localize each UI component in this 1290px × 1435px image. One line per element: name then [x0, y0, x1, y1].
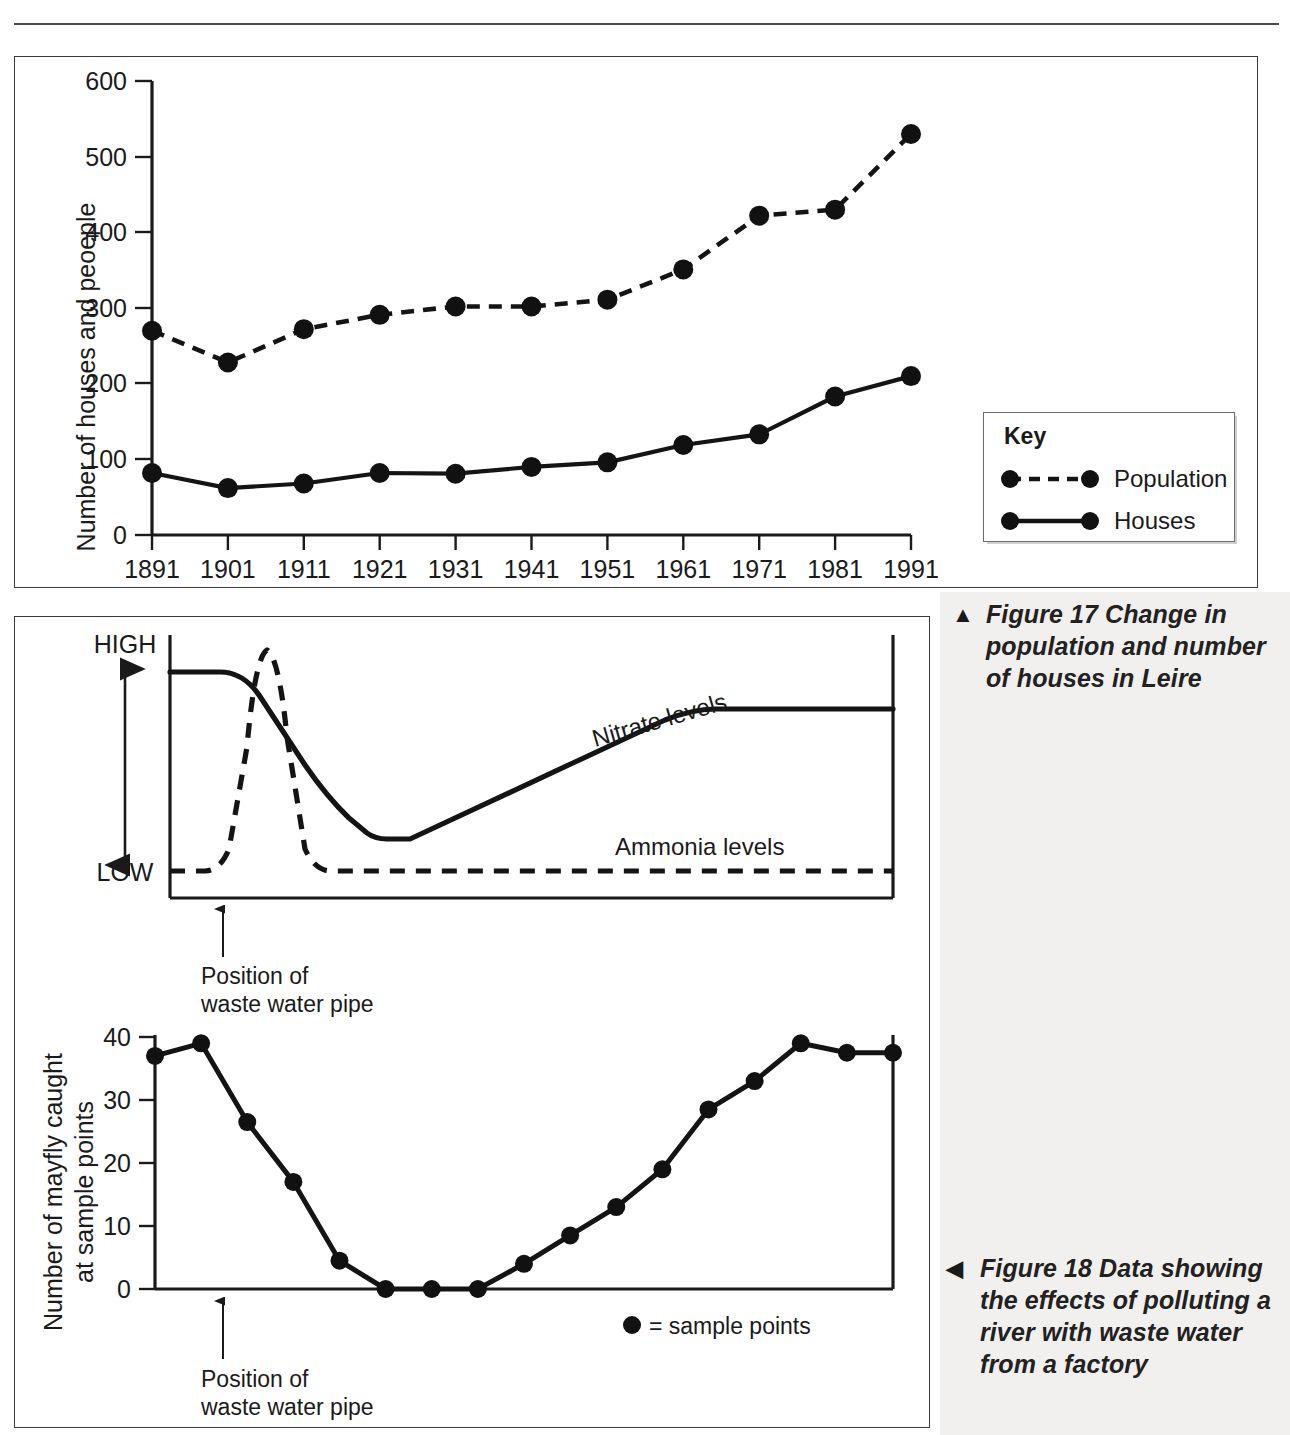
figure-18-upper-chart: HIGH LOW Nitrate levels Ammonia levels P… — [15, 617, 928, 1017]
figure-17-caption: ▲ Figure 17 Change in population and num… — [952, 598, 1282, 694]
figure-18-caption-text: Figure 18 Data showing the effects of po… — [980, 1252, 1282, 1380]
figure-18-lower-pipe-annotation-line1: Position of — [201, 1366, 309, 1392]
page-top-rule — [14, 23, 1279, 25]
figure-17-population-points — [142, 124, 921, 373]
data-point — [825, 387, 845, 407]
sample-point-legend-dot — [623, 1316, 641, 1334]
svg-text:400: 400 — [85, 218, 127, 246]
data-point — [901, 124, 921, 144]
figure-17-population-line — [152, 134, 911, 363]
sample-point — [377, 1280, 395, 1298]
figure-18-lower-y-axis-label-line1: Number of mayfly caught — [39, 1053, 67, 1331]
sample-point — [469, 1280, 487, 1298]
sample-point — [331, 1252, 349, 1270]
figure-18-upper-pipe-annotation-line2: waste water pipe — [200, 991, 374, 1017]
figure-17-x-tick-label: 1891 — [124, 555, 180, 583]
sample-point — [238, 1113, 256, 1131]
sample-point — [423, 1280, 441, 1298]
sample-point — [700, 1100, 718, 1118]
figure-17-caption-text: Figure 17 Change in population and numbe… — [986, 598, 1282, 694]
figure-18-ammonia-label: Ammonia levels — [615, 833, 784, 860]
svg-text:500: 500 — [85, 143, 127, 171]
figure-17-x-tick-label: 1961 — [655, 555, 711, 583]
figure-18-ammonia-curve — [170, 650, 893, 871]
figure-17-x-tick-label: 1901 — [200, 555, 256, 583]
svg-text:0: 0 — [113, 521, 127, 549]
data-point — [597, 290, 617, 310]
data-point — [673, 259, 693, 279]
figure-18-mayfly-points — [146, 1034, 902, 1298]
svg-text:200: 200 — [85, 369, 127, 397]
figure-18-lower-y-ticks — [139, 1037, 155, 1289]
data-point — [294, 319, 314, 339]
svg-text:40: 40 — [103, 1023, 131, 1051]
sample-point — [792, 1034, 810, 1052]
figure-18-nitrate-label: Nitrate levels — [589, 688, 730, 752]
svg-text:20: 20 — [103, 1149, 131, 1177]
data-point — [597, 452, 617, 472]
data-point — [522, 296, 542, 316]
data-point — [522, 457, 542, 477]
data-point — [370, 463, 390, 483]
svg-text:100: 100 — [85, 445, 127, 473]
figure-17-x-tick-label: 1911 — [277, 555, 331, 583]
data-point — [673, 435, 693, 455]
sample-point — [192, 1034, 210, 1052]
sample-point — [146, 1047, 164, 1065]
sample-point — [284, 1173, 302, 1191]
figure-18-caption: ◀ Figure 18 Data showing the effects of … — [946, 1252, 1282, 1380]
data-point — [142, 321, 162, 341]
figure-18-panel: HIGH LOW Nitrate levels Ammonia levels P… — [14, 616, 930, 1428]
key-swatch-solid-line — [998, 507, 1102, 535]
figure-18-upper-pipe-annotation-line1: Position of — [201, 963, 309, 989]
figure-17-x-tick-label: 1971 — [731, 555, 787, 583]
sample-point — [838, 1044, 856, 1062]
sample-point-legend-label: = sample points — [649, 1313, 811, 1339]
data-point — [218, 352, 238, 372]
svg-text:600: 600 — [85, 67, 127, 95]
data-point — [446, 464, 466, 484]
figure-17-houses-points — [142, 366, 921, 498]
svg-text:300: 300 — [85, 294, 127, 322]
data-point — [901, 366, 921, 386]
figure-18-lower-pipe-annotation-line2: waste water pipe — [200, 1394, 374, 1420]
figure-17-x-tick-labels: 1891190119111921193119411951196119711981… — [124, 555, 939, 583]
sample-point — [746, 1072, 764, 1090]
data-point — [370, 305, 390, 325]
sample-point — [515, 1255, 533, 1273]
data-point — [446, 296, 466, 316]
svg-text:30: 30 — [103, 1086, 131, 1114]
figure-17-x-tick-label: 1931 — [428, 555, 484, 583]
data-point — [749, 424, 769, 444]
figure-17-key-box: Key Population Houses — [983, 412, 1235, 542]
key-label-population: Population — [1114, 465, 1227, 493]
figure-17-x-tick-label: 1921 — [352, 555, 408, 583]
figure-17-x-tick-label: 1991 — [883, 555, 939, 583]
data-point — [294, 474, 314, 494]
sample-point — [653, 1160, 671, 1178]
svg-text:0: 0 — [117, 1275, 131, 1303]
figure-18-lower-chart: Number of mayfly caught at sample points… — [15, 1017, 928, 1427]
figure-18-lower-y-axis-label-line2: at sample points — [70, 1101, 98, 1283]
sample-point — [561, 1226, 579, 1244]
data-point — [825, 200, 845, 220]
data-point — [218, 478, 238, 498]
svg-text:10: 10 — [103, 1212, 131, 1240]
sample-point — [884, 1044, 902, 1062]
caption-up-triangle-icon: ▲ — [952, 604, 974, 626]
caption-left-triangle-icon: ◀ — [946, 1258, 963, 1280]
figure-18-nitrate-curve — [170, 672, 893, 839]
data-point — [142, 463, 162, 483]
figure-18-lower-y-tick-labels: 0 10 20 30 40 — [103, 1023, 131, 1303]
figure-18-mayfly-line — [155, 1043, 893, 1289]
sample-point — [607, 1198, 625, 1216]
figure-17-x-tick-label: 1941 — [504, 555, 560, 583]
figure-17-x-tick-label: 1981 — [807, 555, 863, 583]
figure-18-axis-label-high: HIGH — [94, 630, 157, 658]
figure-17-x-tick-label: 1951 — [580, 555, 636, 583]
figure-17-panel: Number of houses and peoeple 0 100 200 3… — [14, 56, 1258, 588]
key-title: Key — [1004, 423, 1046, 450]
key-label-houses: Houses — [1114, 507, 1195, 535]
figure-17-x-ticks — [152, 535, 911, 550]
key-swatch-dashed-line — [998, 465, 1102, 493]
